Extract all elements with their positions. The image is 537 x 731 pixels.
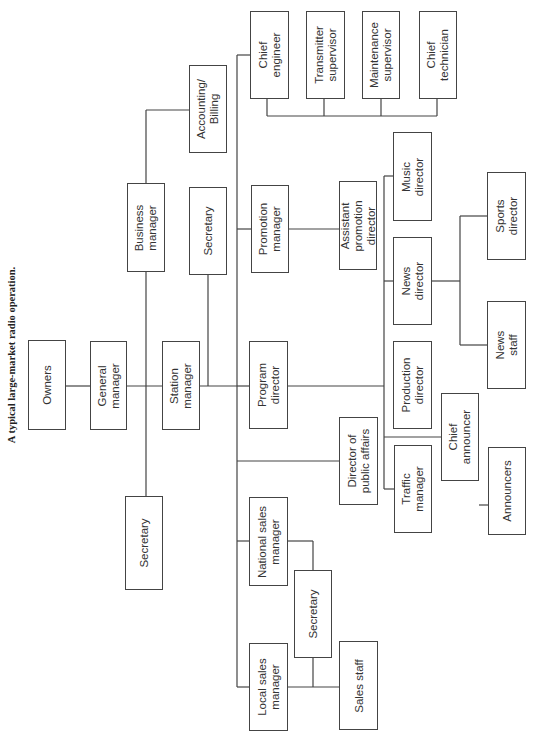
box-owners: Owners — [28, 340, 66, 430]
box-news-staff: News staff — [487, 301, 526, 389]
box-general-manager: General manager — [90, 341, 127, 430]
box-assistant-promotion-director: Assistant promotion director — [339, 181, 377, 270]
box-secretary-station: Secretary — [189, 187, 227, 275]
box-national-sales-manager: National sales manager — [249, 497, 288, 586]
box-news-director: News director — [393, 237, 432, 325]
box-chief-engineer: Chief engineer — [250, 11, 289, 99]
box-secretary-gm: Secretary — [125, 496, 163, 590]
box-music-director: Music director — [393, 132, 432, 221]
box-announcers: Announcers — [488, 447, 526, 535]
box-traffic-manager: Traffic manager — [394, 445, 432, 533]
box-sales-staff: Sales staff — [339, 641, 378, 730]
box-director-public-affairs: Director of public affairs — [339, 417, 378, 505]
box-maintenance-supervisor: Maintenance supervisor — [362, 11, 400, 99]
box-chief-announcer: Chief announcer — [441, 393, 479, 481]
box-program-director: Program director — [249, 341, 288, 429]
box-production-director: Production director — [393, 341, 432, 429]
box-station-manager: Station manager — [162, 341, 200, 430]
box-promotion-manager: Promotion manager — [251, 185, 289, 273]
box-transmitter-supervisor: Transmitter supervisor — [306, 11, 345, 99]
box-business-manager: Business manager — [127, 183, 165, 272]
box-sports-director: Sports director — [487, 172, 526, 260]
box-local-sales-manager: Local sales manager — [249, 643, 288, 731]
box-accounting-billing: Accounting/ Billing — [189, 65, 227, 153]
box-secretary-sales: Secretary — [294, 570, 332, 658]
box-chief-technician: Chief technician — [419, 11, 457, 99]
